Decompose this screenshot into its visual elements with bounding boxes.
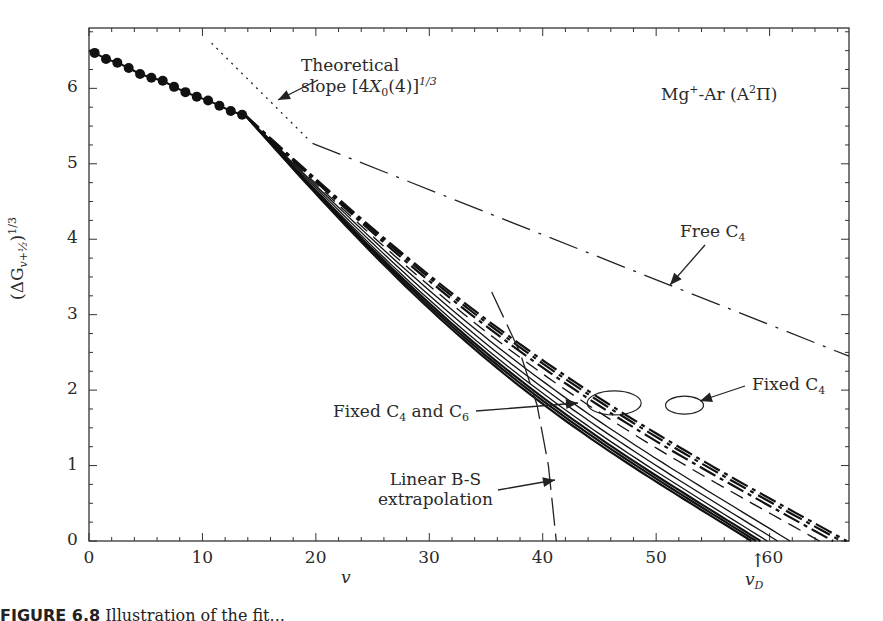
x-tick-label: 40 [532,547,554,567]
arrowhead-icon [542,477,555,487]
figure-caption: FIGURE 6.8 Illustration of the fit... [0,606,285,621]
y-tick-label: 2 [67,378,78,398]
x-tick-label: 0 [84,547,95,567]
fixed-c4-c6-curve [246,116,761,542]
y-tick-label: 6 [67,76,78,96]
arrowhead-icon [700,392,713,401]
data-point-marker [214,101,224,111]
data-point-marker [226,106,236,116]
data-point-marker [203,95,213,105]
data-point-marker [237,110,247,120]
annotation-arrows [278,80,745,490]
fixed-c4-c6-curve [246,116,791,542]
fixed-c4-c6-curve [246,116,768,542]
data-point-marker [135,69,145,79]
x-axis-label: v [341,568,351,588]
x-tick-label: 30 [418,547,440,567]
data-point-marker [192,92,202,102]
x-tick-label: 10 [191,547,213,567]
data-point-marker [90,48,100,58]
data-point-marker [101,54,111,64]
fixed-c4-c6-arrow [476,403,578,411]
data-point-marker [158,76,168,86]
y-tick-label: 5 [67,152,78,172]
fixed-c4-c6-curve [246,116,778,542]
chart-title: Mg+-Ar (A2Π) [661,84,777,104]
theoretical-slope-label: Theoretical slope [4X0(4)]1/3 [301,56,437,99]
x-tick-label: 50 [645,547,667,567]
data-point-marker [124,63,134,73]
fixed-c4-c6-curve [246,116,757,542]
y-tick-label: 4 [67,227,78,247]
data-point-marker [112,58,122,68]
data-point-marker [180,87,190,97]
fixed-c4-curve [246,116,842,542]
fixed-c4-curve [246,116,834,542]
vd-label: vD [745,570,763,593]
theoretical-slope-line [212,43,311,141]
fixed-c4-ellipse [666,396,704,414]
data-point-marker [146,73,156,83]
fixed-c4-label: Fixed C4 [752,375,825,398]
fixed-c4-curve [246,116,847,542]
arrowhead-icon [566,399,578,409]
y-tick-label: 1 [67,454,78,474]
linear-bs-label: Linear B-S extrapolation [378,470,493,509]
free-c4-label: Free C4 [680,222,745,245]
y-tick-label: 0 [67,529,78,549]
y-tick-label: 3 [67,303,78,323]
data-point-marker [169,82,179,92]
x-tick-label: 20 [305,547,327,567]
plot-frame [89,28,849,541]
y-axis-label: (ΔGv+½)1/3 [6,217,30,300]
plot-border [89,28,849,541]
plot-series [89,43,849,541]
fixed-c4-c6-label: Fixed C4 and C6 [333,402,469,425]
